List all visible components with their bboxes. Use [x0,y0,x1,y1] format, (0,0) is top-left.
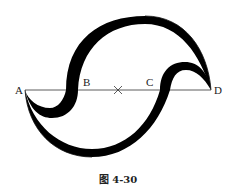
point-label-a: A [15,84,23,96]
point-label-d: D [214,84,222,96]
point-label-c: C [146,76,153,88]
point-label-b: B [83,76,90,88]
figure-caption: 图 4-30 [99,174,138,185]
diagram-canvas: A B C D 图 4-30 [0,0,236,194]
lower-crescent [25,90,170,157]
